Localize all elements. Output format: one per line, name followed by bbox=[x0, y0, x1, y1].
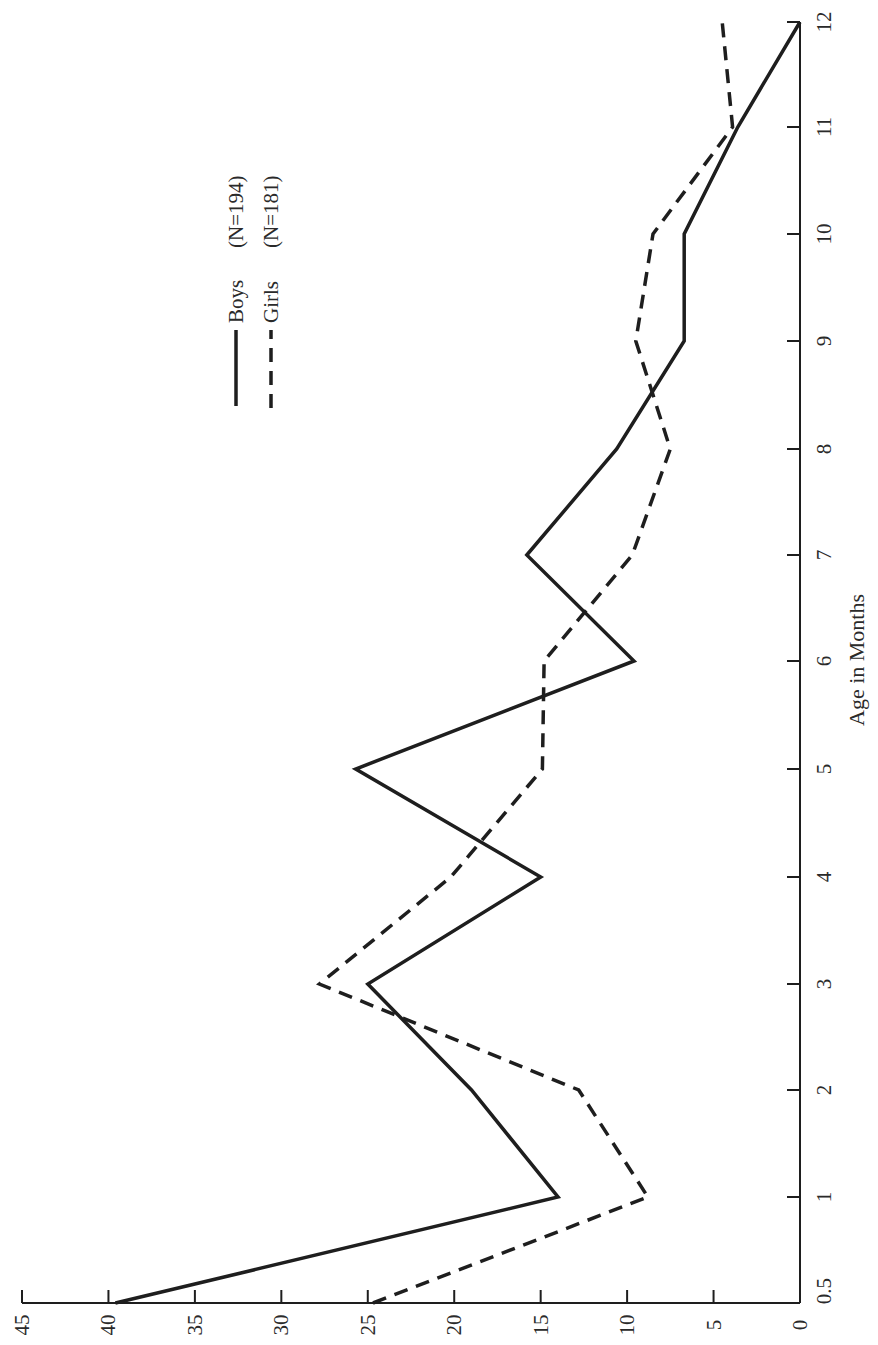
value-tick-label: 25 bbox=[356, 1315, 380, 1336]
series-girls-line bbox=[319, 22, 732, 1303]
line-chart: 051015202530354045 0.5123456789101112 Ag… bbox=[0, 0, 878, 1345]
month-axis-ticks: 0.5123456789101112 bbox=[787, 12, 836, 1305]
legend-boys-n: (N=194) bbox=[224, 175, 248, 248]
month-tick-label: 8 bbox=[812, 444, 836, 455]
month-tick-label: 7 bbox=[812, 550, 836, 561]
value-tick-label: 0 bbox=[788, 1320, 812, 1331]
month-tick-label: 1 bbox=[812, 1192, 836, 1203]
value-tick-label: 40 bbox=[96, 1315, 120, 1336]
value-tick-label: 35 bbox=[183, 1315, 207, 1336]
value-tick-label: 45 bbox=[10, 1315, 34, 1336]
month-tick-label: 0.5 bbox=[812, 1278, 836, 1304]
value-axis-ticks: 051015202530354045 bbox=[10, 1290, 812, 1336]
legend-girls-n: (N=181) bbox=[259, 175, 283, 248]
legend-girls-label: Girls bbox=[259, 281, 283, 323]
month-tick-label: 11 bbox=[812, 117, 836, 137]
month-tick-label: 6 bbox=[812, 656, 836, 667]
month-tick-label: 2 bbox=[812, 1085, 836, 1096]
value-tick-label: 5 bbox=[702, 1320, 726, 1331]
month-tick-label: 5 bbox=[812, 764, 836, 775]
month-tick-label: 4 bbox=[812, 871, 836, 882]
value-tick-label: 20 bbox=[442, 1315, 466, 1336]
x-axis-title: Age in Months bbox=[844, 594, 869, 726]
legend-boys-label: Boys bbox=[224, 280, 248, 323]
series-boys-line bbox=[115, 22, 800, 1303]
value-tick-label: 15 bbox=[529, 1315, 553, 1336]
month-tick-label: 12 bbox=[812, 12, 836, 33]
month-tick-label: 9 bbox=[812, 336, 836, 347]
value-tick-label: 10 bbox=[615, 1315, 639, 1336]
value-tick-label: 30 bbox=[269, 1315, 293, 1336]
month-tick-label: 10 bbox=[812, 224, 836, 245]
legend: Boys (N=194) Girls (N=181) bbox=[224, 175, 283, 408]
month-tick-label: 3 bbox=[812, 979, 836, 990]
